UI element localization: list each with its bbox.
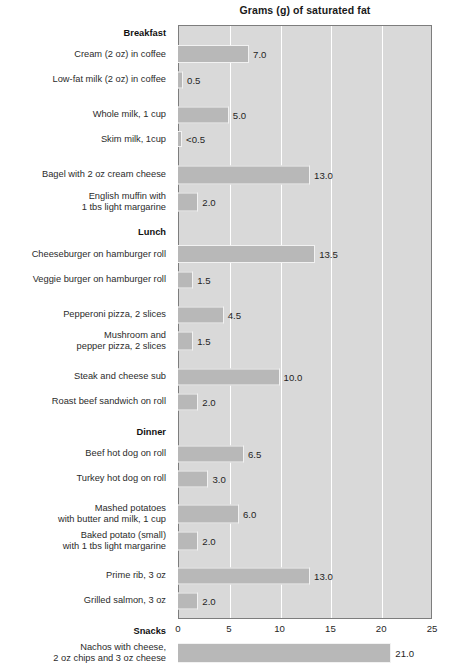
section-label: Breakfast [0, 28, 172, 39]
bar-value-label: 1.5 [197, 274, 210, 285]
spacer-row [0, 554, 453, 563]
bar-value-label: 0.5 [187, 74, 200, 85]
category-label: Cream (2 oz) in coffee [0, 49, 172, 60]
bar-value-label: 6.0 [243, 508, 256, 519]
spacer-row [0, 292, 453, 302]
bar-value-label: 2.0 [202, 595, 215, 606]
section-label: Dinner [0, 427, 172, 438]
bar [178, 45, 249, 63]
category-label: Beef hot dog on roll [0, 448, 172, 459]
spacer-row [0, 354, 453, 364]
bar-track [178, 424, 453, 441]
bar-row: Pepperoni pizza, 2 slices4.5 [0, 302, 453, 327]
bar-value-label: 2.0 [202, 396, 215, 407]
bar-row: Cheeseburger on hamburger roll13.5 [0, 241, 453, 267]
bar-track: 1.5 [178, 267, 453, 292]
category-label: Steak and cheese sub [0, 371, 172, 382]
bar [178, 470, 208, 487]
spacer-row [0, 151, 453, 161]
bar-row: Steak and cheese sub10.0 [0, 364, 453, 389]
bar-track: 3.0 [178, 466, 453, 491]
category-label: Turkey hot dog on roll [0, 473, 172, 484]
bar-track [178, 491, 453, 500]
bar-track [178, 151, 453, 161]
bar-track: 5.0 [178, 102, 453, 127]
bar-value-label: 6.5 [248, 448, 261, 459]
bar [178, 306, 224, 323]
bar-row: Prime rib, 3 oz13.0 [0, 563, 453, 588]
bar-row: English muffin with 1 tbs light margarin… [0, 188, 453, 215]
bar-row: Cream (2 oz) in coffee7.0 [0, 41, 453, 67]
bar [178, 106, 229, 123]
bar-track: 2.0 [178, 588, 453, 613]
section-header-row: Lunch [0, 224, 453, 241]
bar-track: 2.0 [178, 389, 453, 414]
category-label: Bagel with 2 oz cream cheese [0, 169, 172, 180]
category-label: Pepperoni pizza, 2 slices [0, 309, 172, 320]
chart-rows: BreakfastCream (2 oz) in coffee7.0Low-fa… [0, 25, 453, 619]
bar-row: Skim milk, 1cup<0.5 [0, 127, 453, 151]
category-label: Nachos with cheese, 2 oz chips and 3 oz … [0, 642, 172, 663]
category-label: Cheeseburger on hamburger roll [0, 249, 172, 260]
bar [178, 643, 391, 663]
bar-track [178, 215, 453, 224]
bar-value-label: 13.0 [314, 570, 333, 581]
x-tick-label-0: 0 [175, 623, 180, 634]
bar-row: Grilled salmon, 3 oz2.0 [0, 588, 453, 613]
bar-value-label: 13.0 [314, 169, 333, 180]
bar-row: Low-fat milk (2 oz) in coffee0.5 [0, 67, 453, 92]
bar-row: Veggie burger on hamburger roll1.5 [0, 267, 453, 292]
bar-row: Roast beef sandwich on roll2.0 [0, 389, 453, 414]
category-label: Skim milk, 1cup [0, 134, 172, 145]
bar-row: Beef hot dog on roll6.5 [0, 441, 453, 466]
bar-track [178, 354, 453, 364]
bar-value-label: 1.5 [197, 335, 210, 346]
bar [178, 592, 198, 609]
bar [178, 245, 315, 263]
bar [178, 131, 182, 147]
bar [178, 393, 198, 410]
bar-track: 10.0 [178, 364, 453, 389]
bar-track: 2.0 [178, 527, 453, 554]
bar-track [178, 25, 453, 41]
category-label: Whole milk, 1 cup [0, 109, 172, 120]
bar-value-label: 5.0 [233, 109, 246, 120]
bar [178, 531, 198, 550]
x-tick-label-5: 5 [226, 623, 231, 634]
x-tick-label-20: 20 [376, 623, 387, 634]
bar-value-label: 4.5 [228, 309, 241, 320]
spacer-row [0, 613, 453, 623]
bar-row: Bagel with 2 oz cream cheese13.0 [0, 161, 453, 188]
bar-row: Whole milk, 1 cup5.0 [0, 102, 453, 127]
bar-track: 13.5 [178, 241, 453, 267]
section-label: Snacks [0, 626, 172, 637]
bar-track: 4.5 [178, 302, 453, 327]
category-label: Roast beef sandwich on roll [0, 396, 172, 407]
bar [178, 71, 183, 88]
bar-track [178, 414, 453, 424]
category-label: Prime rib, 3 oz [0, 570, 172, 581]
bar-value-label: 3.0 [212, 473, 225, 484]
bar [178, 504, 239, 523]
spacer-row [0, 414, 453, 424]
bar [178, 368, 280, 385]
bar-track [178, 92, 453, 102]
bar-track: 13.0 [178, 563, 453, 588]
bar-track [178, 292, 453, 302]
category-label: Veggie burger on hamburger roll [0, 274, 172, 285]
bar [178, 445, 244, 462]
bar-track [178, 613, 453, 623]
bar-track: 0.5 [178, 67, 453, 92]
spacer-row [0, 215, 453, 224]
category-label: Baked potato (small) with 1 tbs light ma… [0, 530, 172, 551]
x-axis: 0510152025 [178, 623, 432, 643]
bar-track: 1.5 [178, 327, 453, 354]
bar-value-label: 10.0 [284, 371, 303, 382]
bar-value-label: <0.5 [186, 134, 205, 145]
bar-row: Baked potato (small) with 1 tbs light ma… [0, 527, 453, 554]
chart-title: Grams (g) of saturated fat [178, 4, 432, 16]
section-label: Lunch [0, 227, 172, 238]
category-label: Grilled salmon, 3 oz [0, 595, 172, 606]
bar-value-label: 21.0 [395, 648, 414, 659]
bar [178, 567, 310, 584]
